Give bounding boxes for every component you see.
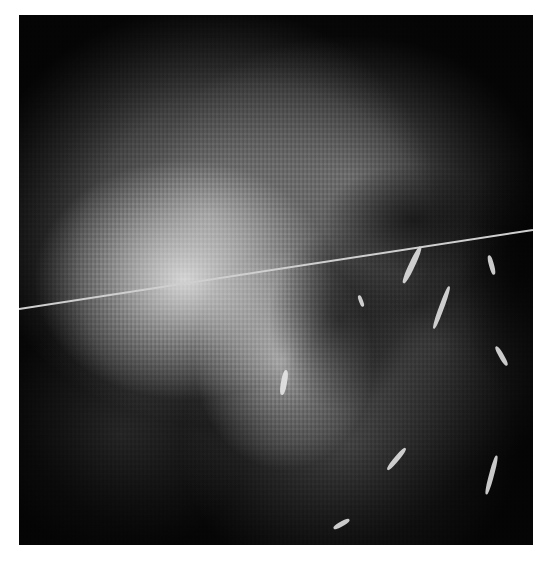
vignette <box>19 15 533 545</box>
microscopy-image <box>19 15 533 545</box>
